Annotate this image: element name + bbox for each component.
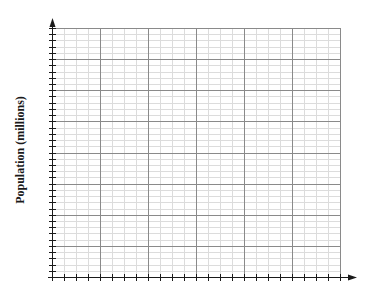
axes bbox=[48, 18, 357, 281]
y-axis-arrow-icon bbox=[50, 18, 56, 27]
y-axis-label: Population (millions) bbox=[12, 80, 28, 220]
x-axis-arrow-icon bbox=[348, 275, 357, 281]
graph-grid bbox=[0, 0, 366, 295]
axis-ticks bbox=[49, 29, 341, 282]
blank-graph-chart: Population (millions) bbox=[0, 0, 366, 295]
